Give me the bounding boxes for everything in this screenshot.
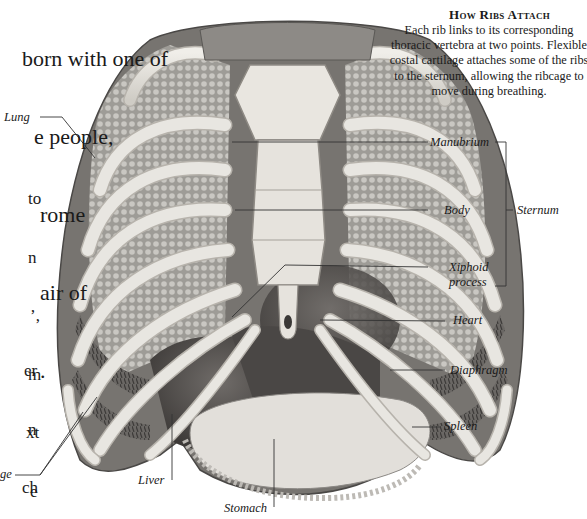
- sidebar-body: Each rib links to its corresponding thor…: [384, 23, 587, 99]
- sidebar-title: How Ribs Attach: [412, 7, 587, 23]
- intro-line: e people,: [0, 124, 168, 150]
- sternum-body: [252, 140, 325, 285]
- intro-text-low: er n ch: [0, 322, 38, 517]
- intro-line: er: [0, 361, 38, 381]
- label-costal-cartilage-partial: ge: [0, 467, 12, 481]
- label-process: process: [449, 275, 487, 289]
- xiphoid: [278, 285, 298, 339]
- manubrium: [235, 65, 340, 140]
- label-body: Body: [444, 203, 470, 217]
- stomach: [190, 393, 430, 489]
- label-manubrium: Manubrium: [430, 135, 489, 149]
- intro-line: n: [0, 420, 38, 440]
- intro-line: to: [0, 189, 41, 209]
- label-heart: Heart: [453, 313, 482, 327]
- intro-line: born with one of: [0, 46, 168, 72]
- label-lung: Lung: [4, 110, 30, 124]
- label-xiphoid: Xiphoid: [449, 260, 489, 274]
- intro-line: n: [0, 248, 41, 268]
- label-sternum: Sternum: [517, 203, 559, 217]
- label-stomach: Stomach: [224, 501, 267, 515]
- label-diaphragm: Diaphragm: [450, 363, 508, 377]
- label-liver: Liver: [138, 473, 164, 487]
- first-rib-top: [200, 23, 375, 61]
- label-spleen: Spleen: [444, 419, 477, 433]
